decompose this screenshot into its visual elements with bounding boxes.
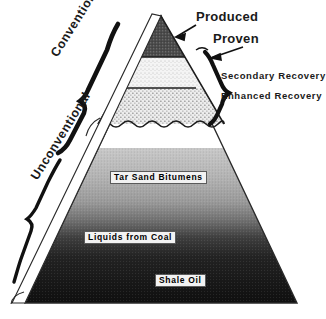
proven-tick xyxy=(196,48,208,50)
label-enhanced-recovery: Enhanced Recovery xyxy=(221,90,322,101)
label-tar-sand-bitumens: Tar Sand Bitumens xyxy=(110,171,207,184)
label-liquids-from-coal: Liquids from Coal xyxy=(84,231,176,244)
label-proven: Proven xyxy=(213,31,259,46)
label-shale-oil: Shale Oil xyxy=(155,274,206,287)
arrow-produced xyxy=(176,25,196,40)
figure-canvas: Produced Proven Secondary Recovery Enhan… xyxy=(0,0,326,319)
label-produced: Produced xyxy=(196,9,258,24)
label-secondary-recovery: Secondary Recovery xyxy=(221,70,326,81)
arrow-proven xyxy=(211,47,243,60)
